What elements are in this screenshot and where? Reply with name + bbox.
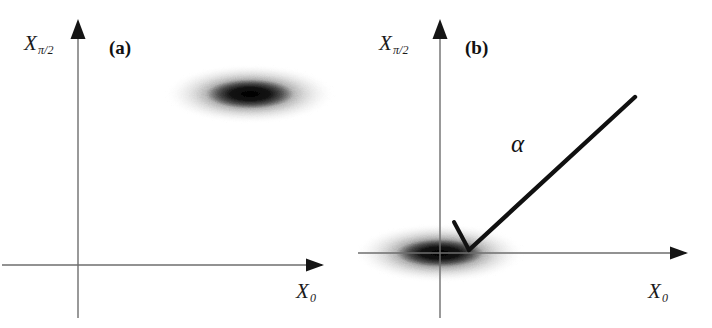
panel-tag-a: (a) [109,38,131,57]
panel-tag-b: (b) [465,38,488,57]
y-axis-label-b: Xπ/2 [379,33,408,56]
alpha-symbol-label: α [511,131,524,156]
x-axis-arrowhead-a [306,259,324,272]
alpha-vector-barb [454,222,469,250]
alpha-vector-shaft [469,97,635,250]
panel-a: Xπ/2 X0 (a) [0,0,356,328]
x-axis-label-b: X0 [648,281,668,304]
figure-canvas: Xπ/2 X0 (a) [0,0,712,328]
y-axis-label-a: Xπ/2 [24,33,53,56]
panel-b: α Xπ/2 X0 (b) [356,0,712,328]
x-axis-label-a: X0 [296,281,316,304]
y-axis-arrowhead-a [71,19,86,39]
